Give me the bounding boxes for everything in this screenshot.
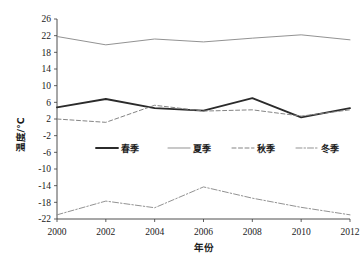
series-lines [57, 35, 350, 215]
y-tick-label: -18 [38, 198, 51, 208]
y-tick-label: 18 [42, 48, 52, 58]
y-tick-label: 26 [42, 14, 52, 24]
series-line [57, 187, 350, 215]
y-tick-label: 14 [42, 64, 52, 74]
x-tick-label: 2012 [341, 227, 360, 237]
temperature-line-chart: 262218141062-2-6-10-14-18-22 20002002200… [0, 0, 362, 258]
y-tick-label: 22 [42, 31, 52, 41]
y-axis-title: 温度/℃ [15, 118, 26, 153]
series-line [57, 35, 350, 45]
series-line [57, 98, 350, 117]
x-tick-label: 2008 [243, 227, 262, 237]
legend-label: 冬季 [321, 143, 340, 154]
legend-label: 春季 [120, 143, 140, 154]
x-tick-label: 2000 [48, 227, 67, 237]
x-tick-label: 2004 [145, 227, 164, 237]
y-tick-label: -22 [38, 214, 51, 224]
x-tick-label: 2006 [194, 227, 213, 237]
legend-label: 秋季 [256, 143, 276, 154]
series-line [57, 105, 350, 122]
y-tick-label: -2 [43, 131, 51, 141]
y-axis: 262218141062-2-6-10-14-18-22 [38, 14, 57, 224]
y-tick-label: -14 [38, 181, 51, 191]
y-tick-label: 6 [46, 98, 51, 108]
chart-legend: 春季夏季秋季冬季 [96, 143, 340, 154]
y-tick-label: 2 [46, 114, 51, 124]
y-tick-label: 10 [42, 81, 52, 91]
y-tick-label: -6 [43, 148, 51, 158]
legend-label: 夏季 [192, 143, 212, 154]
y-tick-label: -10 [38, 164, 51, 174]
x-tick-label: 2002 [96, 227, 115, 237]
x-axis-title: 年份 [194, 242, 214, 253]
chart-canvas: 262218141062-2-6-10-14-18-22 20002002200… [0, 0, 362, 258]
x-axis: 2000200220042006200820102012 [48, 219, 360, 237]
x-tick-label: 2010 [292, 227, 311, 237]
